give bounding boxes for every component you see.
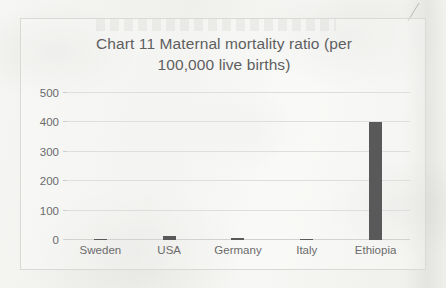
- bar-ethiopia[interactable]: [369, 122, 382, 240]
- y-axis-tick-label: 200: [40, 175, 59, 187]
- bar-series: [66, 93, 410, 240]
- bar-slot: [204, 93, 273, 240]
- x-axis-label-usa: USA: [135, 244, 204, 256]
- bar-sweden[interactable]: [94, 239, 107, 240]
- y-axis-tick-label: 300: [40, 146, 59, 158]
- plot-area: 0100200300400500: [66, 93, 410, 240]
- x-axis-tick-labels: SwedenUSAGermanyItalyEthiopia: [66, 244, 410, 256]
- chart-title: Chart 11 Maternal mortality ratio (per 1…: [35, 33, 413, 75]
- y-axis-tick-label: 0: [53, 234, 59, 246]
- x-axis-label-sweden: Sweden: [66, 244, 135, 256]
- chart-title-line-1: Chart 11 Maternal mortality ratio (per: [35, 33, 413, 54]
- y-axis-tick-label: 100: [40, 205, 59, 217]
- bar-germany[interactable]: [231, 238, 244, 240]
- x-axis-label-italy: Italy: [272, 244, 341, 256]
- chart-title-line-2: 100,000 live births): [35, 54, 413, 75]
- x-axis-label-germany: Germany: [204, 244, 273, 256]
- y-axis-tick-label: 400: [40, 116, 59, 128]
- bar-usa[interactable]: [163, 236, 176, 240]
- x-axis-label-ethiopia: Ethiopia: [341, 244, 410, 256]
- bar-italy[interactable]: [300, 239, 313, 240]
- bar-slot: [66, 93, 135, 240]
- y-axis-tick-label: 500: [40, 87, 59, 99]
- bar-slot: [135, 93, 204, 240]
- bar-slot: [272, 93, 341, 240]
- chart-frame: Chart 11 Maternal mortality ratio (per 1…: [20, 18, 426, 270]
- bar-slot: [341, 93, 410, 240]
